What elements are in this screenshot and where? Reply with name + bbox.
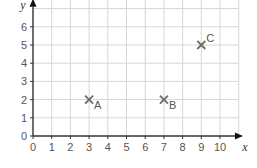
x-tick-label: 8 xyxy=(180,141,186,153)
point-label: A xyxy=(94,99,102,111)
y-tick-label: 5 xyxy=(21,39,27,51)
y-tick-label: 3 xyxy=(21,75,27,87)
x-tick-label: 10 xyxy=(214,141,226,153)
point-c: C xyxy=(197,32,214,49)
axes xyxy=(30,0,243,140)
x-tick-label: 7 xyxy=(161,141,167,153)
coordinate-grid-chart: 0123456789100123456xy ABC xyxy=(0,0,257,168)
y-axis-label: y xyxy=(19,0,26,12)
x-tick-label: 0 xyxy=(30,141,36,153)
y-tick-label: 6 xyxy=(21,21,27,33)
data-points: ABC xyxy=(85,32,214,111)
x-tick-label: 4 xyxy=(105,141,111,153)
point-b: B xyxy=(160,96,176,111)
y-tick-label: 2 xyxy=(21,94,27,106)
y-axis-arrow-icon xyxy=(30,0,37,7)
x-tick-label: 1 xyxy=(49,141,55,153)
y-tick-label: 1 xyxy=(21,112,27,124)
point-label: B xyxy=(169,99,176,111)
grid-lines xyxy=(33,0,239,136)
x-tick-label: 9 xyxy=(198,141,204,153)
tick-labels: 0123456789100123456xy xyxy=(19,0,248,154)
point-label: C xyxy=(206,32,214,44)
x-tick-label: 3 xyxy=(86,141,92,153)
x-tick-label: 6 xyxy=(142,141,148,153)
x-axis-label: x xyxy=(241,140,248,154)
x-tick-label: 2 xyxy=(67,141,73,153)
y-tick-label: 0 xyxy=(21,130,27,142)
x-tick-label: 5 xyxy=(123,141,129,153)
point-a: A xyxy=(85,96,102,111)
y-tick-label: 4 xyxy=(21,57,27,69)
